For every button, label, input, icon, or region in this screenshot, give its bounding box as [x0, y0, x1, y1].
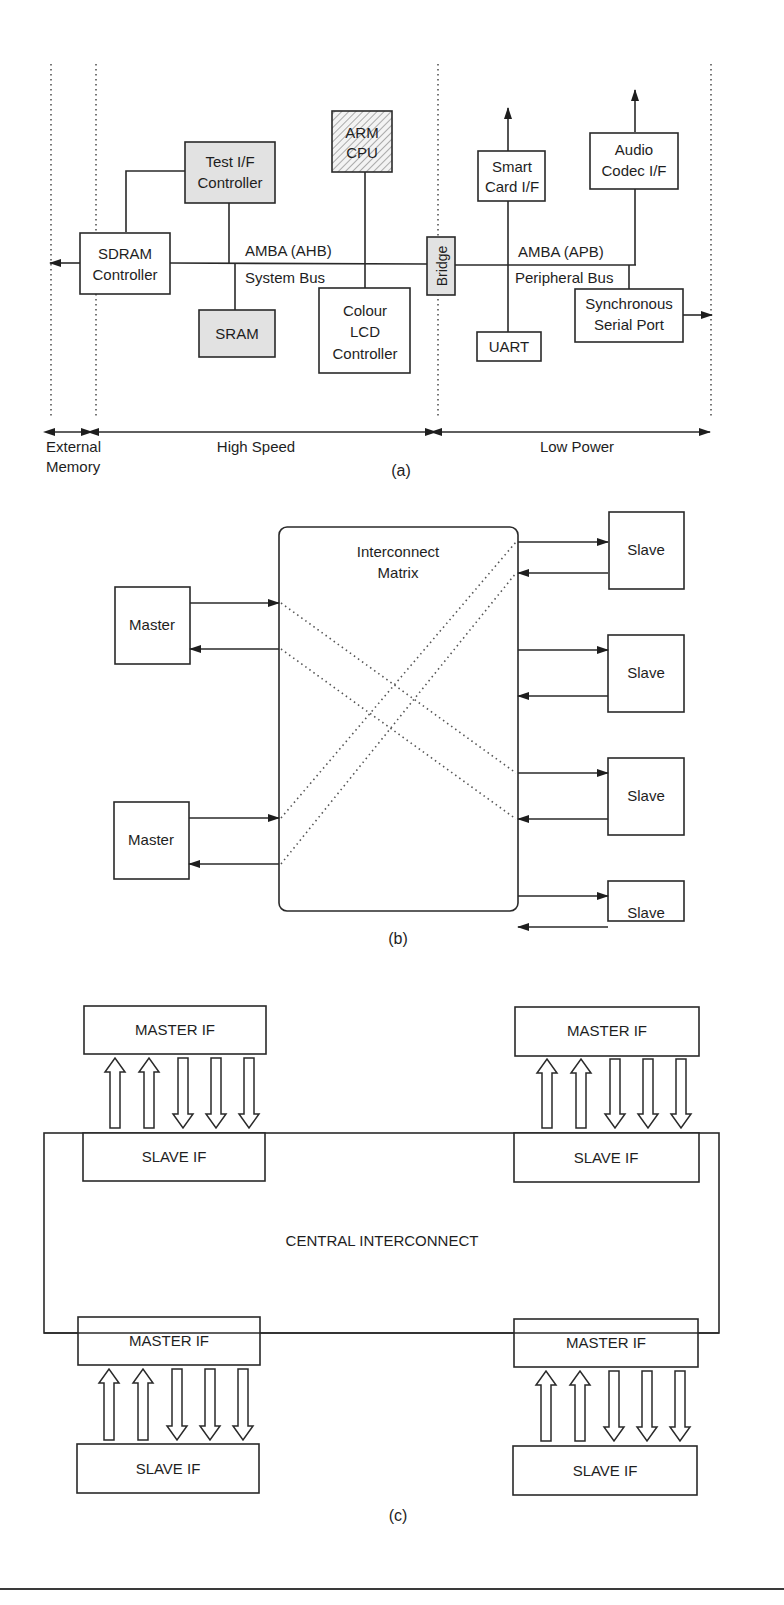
block-label: Test I/F — [205, 153, 254, 170]
hollow-up-arrow-icon — [139, 1058, 159, 1128]
sdram-controller-block: SDRAM Controller — [80, 233, 170, 294]
slave-label: Slave — [627, 904, 665, 921]
slave-if-label: SLAVE IF — [574, 1149, 639, 1166]
block-label: CPU — [346, 144, 378, 161]
low-power-label: Low Power — [540, 438, 614, 455]
slave-label: Slave — [627, 541, 665, 558]
hollow-up-arrow-icon — [105, 1058, 125, 1128]
slave-if-block: SLAVE IF — [83, 1133, 265, 1181]
block-label: Smart — [492, 158, 533, 175]
master-if-label: MASTER IF — [135, 1021, 215, 1038]
hollow-up-arrow-icon — [571, 1059, 591, 1128]
external-memory-label: External — [46, 438, 101, 455]
peripheral-bus-label: Peripheral Bus — [515, 269, 613, 286]
master-if-label: MASTER IF — [567, 1022, 647, 1039]
interconnect-matrix — [279, 527, 518, 911]
matrix-label: Interconnect — [357, 543, 440, 560]
hollow-down-arrow-icon — [605, 1059, 625, 1128]
block-label: SRAM — [215, 325, 258, 342]
master-label: Master — [129, 616, 175, 633]
block-label: Colour — [343, 302, 387, 319]
caption-c: (c) — [389, 1507, 408, 1524]
slave-if-label: SLAVE IF — [136, 1460, 201, 1477]
hollow-up-arrow-icon — [537, 1059, 557, 1128]
external-memory-label: Memory — [46, 458, 101, 475]
master-label: Master — [128, 831, 174, 848]
slave-block: Slave — [608, 635, 684, 712]
block-label: UART — [489, 338, 530, 355]
hollow-down-arrow-icon — [637, 1371, 657, 1441]
slave-block: Slave — [608, 758, 684, 835]
hollow-down-arrow-icon — [638, 1059, 658, 1128]
hollow-up-arrow-icon — [133, 1369, 153, 1440]
caption-b: (b) — [388, 930, 408, 947]
apb-label: AMBA (APB) — [518, 243, 604, 260]
block-label: Controller — [92, 266, 157, 283]
figure-a: Test I/F Controller ARM CPU SDRAM Contro… — [46, 64, 712, 479]
block-label: Card I/F — [485, 178, 539, 195]
caption-a: (a) — [391, 462, 411, 479]
test-if-controller-block: Test I/F Controller — [185, 142, 275, 203]
slave-label: Slave — [627, 787, 665, 804]
arm-cpu-block: ARM CPU — [332, 111, 392, 172]
block-label: Codec I/F — [601, 162, 666, 179]
hollow-down-arrow-icon — [200, 1369, 220, 1440]
slave-label: Slave — [627, 664, 665, 681]
master-block: Master — [114, 802, 189, 879]
hollow-up-arrow-icon — [570, 1371, 590, 1441]
audio-codec-if-block: Audio Codec I/F — [590, 133, 678, 189]
colour-lcd-controller-block: Colour LCD Controller — [319, 288, 410, 373]
hollow-down-arrow-icon — [233, 1369, 253, 1440]
figure-c: CENTRAL INTERCONNECT MASTER IF SLAVE IF … — [44, 1006, 719, 1524]
ahb-label: AMBA (AHB) — [245, 242, 332, 259]
block-label: ARM — [345, 124, 378, 141]
synchronous-serial-port-block: Synchronous Serial Port — [575, 289, 683, 342]
block-label: SDRAM — [98, 245, 152, 262]
hollow-down-arrow-icon — [167, 1369, 187, 1440]
master-block: Master — [115, 587, 190, 664]
figure-canvas: Test I/F Controller ARM CPU SDRAM Contro… — [0, 0, 784, 1605]
block-label: Synchronous — [585, 295, 673, 312]
smart-card-if-block: Smart Card I/F — [478, 151, 545, 201]
connector — [126, 171, 185, 232]
master-if-block: MASTER IF — [78, 1317, 260, 1365]
block-label: Audio — [615, 141, 653, 158]
block-label: Serial Port — [594, 316, 665, 333]
system-bus-label: System Bus — [245, 269, 325, 286]
hollow-down-arrow-icon — [173, 1058, 193, 1128]
slave-if-block: SLAVE IF — [514, 1133, 699, 1182]
slave-block: Slave — [608, 881, 684, 921]
slave-block: Slave — [609, 512, 684, 589]
block-label: Controller — [197, 174, 262, 191]
hollow-down-arrow-icon — [206, 1058, 226, 1128]
master-if-block: MASTER IF — [515, 1007, 699, 1056]
master-if-label: MASTER IF — [129, 1332, 209, 1349]
hollow-up-arrow-icon — [536, 1371, 556, 1441]
slave-if-label: SLAVE IF — [573, 1462, 638, 1479]
block-label: Bridge — [434, 246, 450, 287]
hollow-down-arrow-icon — [671, 1059, 691, 1128]
hollow-down-arrow-icon — [604, 1371, 624, 1441]
master-if-block: MASTER IF — [84, 1006, 266, 1054]
hollow-down-arrow-icon — [239, 1058, 259, 1128]
high-speed-label: High Speed — [217, 438, 295, 455]
block-label: LCD — [350, 323, 380, 340]
master-if-label: MASTER IF — [566, 1334, 646, 1351]
hollow-down-arrow-icon — [670, 1371, 690, 1441]
slave-if-block: SLAVE IF — [77, 1444, 259, 1493]
block-label: Controller — [332, 345, 397, 362]
uart-block: UART — [477, 332, 541, 361]
slave-if-label: SLAVE IF — [142, 1148, 207, 1165]
slave-if-block: SLAVE IF — [513, 1446, 697, 1495]
master-if-block: MASTER IF — [514, 1319, 698, 1367]
ahb-system-bus — [170, 263, 427, 264]
sram-block: SRAM — [199, 310, 275, 357]
figure-b: Interconnect Matrix Master Master Slave … — [114, 512, 684, 947]
bridge-block: Bridge — [427, 237, 455, 295]
hollow-up-arrow-icon — [99, 1369, 119, 1440]
matrix-label: Matrix — [378, 564, 419, 581]
central-interconnect-label: CENTRAL INTERCONNECT — [286, 1232, 479, 1249]
